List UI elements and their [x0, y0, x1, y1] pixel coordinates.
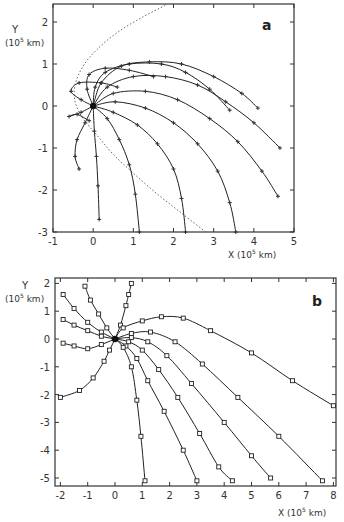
- y-tick-label: -3: [40, 417, 50, 428]
- time-marker: [209, 329, 213, 333]
- panel-b-ylabel-unit: (105 km): [5, 292, 44, 304]
- panel-b-ticks: -2-1012345678210-1-2-3-4-5: [40, 278, 337, 501]
- time-marker: [320, 479, 324, 483]
- time-marker: [146, 340, 150, 344]
- time-marker: [331, 404, 335, 408]
- time-marker: [83, 284, 87, 288]
- time-marker: [189, 381, 193, 385]
- panel-b-trajectories: [58, 281, 335, 482]
- x-tick-label: 5: [291, 236, 297, 247]
- trajectory-traj9: [93, 106, 139, 232]
- time-marker: [129, 331, 133, 335]
- x-tick-label: 2: [166, 490, 172, 501]
- x-tick-label: 4: [221, 490, 227, 501]
- y-tick-label: 1: [42, 59, 48, 70]
- x-tick-label: 0: [112, 490, 118, 501]
- y-tick-label: -3: [38, 227, 48, 238]
- trajectory-traj1: [115, 283, 131, 339]
- trajectory-traj5: [93, 75, 280, 148]
- x-tick-label: 7: [303, 490, 309, 501]
- time-marker: [148, 330, 152, 334]
- time-marker: [139, 434, 143, 438]
- panel-b-label: b: [312, 293, 322, 309]
- panel-b-ylabel-y: Y: [21, 280, 29, 291]
- time-marker: [135, 398, 139, 402]
- time-marker: [105, 326, 109, 330]
- time-marker: [124, 304, 128, 308]
- y-tick-label: -2: [38, 185, 48, 196]
- time-marker: [99, 330, 103, 334]
- time-marker: [195, 479, 199, 483]
- origin-source-dot: [90, 103, 96, 109]
- time-marker: [222, 420, 226, 424]
- time-marker: [121, 345, 125, 349]
- x-tick-label: 6: [276, 490, 282, 501]
- time-marker: [181, 316, 185, 320]
- trajectory-traj7: [93, 102, 236, 232]
- time-marker: [236, 395, 240, 399]
- y-tick-label: 1: [44, 306, 50, 317]
- x-tick-label: 3: [194, 490, 200, 501]
- trajectory-traj12: [115, 339, 145, 481]
- time-marker: [86, 347, 90, 351]
- figure: -1012345210-1-2-3 a Y (105 km) X (105 km…: [0, 0, 344, 522]
- time-marker: [127, 293, 131, 297]
- time-marker: [99, 343, 103, 347]
- panel-a-ylabel-unit: (105 km): [5, 36, 44, 48]
- y-tick-label: 0: [44, 334, 50, 345]
- panel-b-xlabel: X (105 km): [278, 506, 326, 518]
- time-marker: [58, 395, 62, 399]
- time-marker: [129, 281, 133, 285]
- time-marker: [198, 432, 202, 436]
- time-marker: [97, 312, 101, 316]
- x-tick-label: -1: [83, 490, 93, 501]
- panel-a-frame: [53, 4, 294, 232]
- panel-a-ticks: -1012345210-1-2-3: [38, 4, 297, 247]
- time-marker: [108, 348, 112, 352]
- time-marker: [157, 368, 161, 372]
- y-tick-label: -5: [40, 473, 50, 484]
- time-marker: [146, 379, 150, 383]
- time-marker: [61, 293, 65, 297]
- time-marker: [165, 354, 169, 358]
- time-marker: [217, 465, 221, 469]
- time-marker: [140, 348, 144, 352]
- time-marker: [78, 388, 82, 392]
- time-marker: [290, 379, 294, 383]
- trajectory-traj11: [75, 106, 93, 169]
- y-tick-label: 2: [42, 17, 48, 28]
- time-marker: [250, 454, 254, 458]
- time-marker: [91, 376, 95, 380]
- time-marker: [181, 448, 185, 452]
- time-marker: [159, 315, 163, 319]
- trajectory-traj10: [93, 106, 99, 219]
- time-marker: [61, 341, 65, 345]
- time-marker: [269, 476, 273, 480]
- x-tick-label: 1: [139, 490, 145, 501]
- trajectory-traj11: [115, 339, 197, 481]
- time-marker: [143, 479, 147, 483]
- time-marker: [176, 395, 180, 399]
- time-marker: [135, 356, 139, 360]
- time-marker: [88, 298, 92, 302]
- time-marker: [277, 434, 281, 438]
- time-marker: [102, 359, 106, 363]
- x-tick-label: 5: [248, 490, 254, 501]
- time-marker: [61, 318, 65, 322]
- time-marker: [140, 319, 144, 323]
- panel-a-label: a: [262, 17, 271, 33]
- time-marker: [129, 365, 133, 369]
- x-tick-label: 8: [330, 490, 336, 501]
- time-marker: [127, 340, 131, 344]
- x-tick-label: -1: [48, 236, 58, 247]
- x-tick-label: 3: [210, 236, 216, 247]
- x-tick-label: -2: [55, 490, 65, 501]
- y-tick-label: -1: [40, 362, 50, 373]
- trajectory-traj10: [115, 339, 232, 481]
- time-marker: [200, 362, 204, 366]
- x-tick-label: 1: [130, 236, 136, 247]
- time-marker: [72, 323, 76, 327]
- y-tick-label: -1: [38, 143, 48, 154]
- time-marker: [121, 326, 125, 330]
- time-marker: [72, 306, 76, 310]
